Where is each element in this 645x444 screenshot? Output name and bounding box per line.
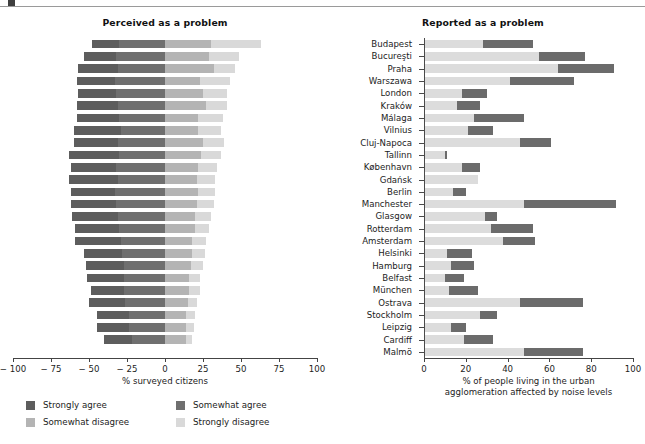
legend-swatch-icon bbox=[176, 401, 185, 410]
city-label: London bbox=[380, 88, 412, 98]
seg-somewhat-disagree bbox=[165, 151, 201, 160]
seg-strongly-agree bbox=[77, 77, 115, 86]
seg-somewhat-disagree bbox=[165, 126, 198, 135]
seg-55-65-db bbox=[424, 126, 468, 135]
right-bar-row bbox=[424, 311, 633, 320]
seg-strongly-agree bbox=[86, 261, 124, 270]
seg-somewhat-disagree bbox=[165, 274, 189, 283]
seg-somewhat-agree bbox=[129, 311, 165, 320]
seg-strongly-disagree bbox=[192, 249, 204, 258]
seg-55-65-db bbox=[424, 249, 447, 258]
seg-somewhat-disagree bbox=[165, 323, 186, 332]
right-axis-tick bbox=[549, 358, 550, 362]
seg-55-65-db bbox=[424, 224, 491, 233]
seg-strongly-agree bbox=[78, 64, 118, 73]
seg-somewhat-agree bbox=[121, 237, 165, 246]
city-label: Budapest bbox=[371, 39, 412, 49]
city-label: Málaga bbox=[381, 113, 412, 123]
city-label: Glasgow bbox=[375, 211, 412, 221]
seg-somewhat-disagree bbox=[165, 224, 195, 233]
seg-55-65-db bbox=[424, 274, 445, 283]
right-axis-tick-label: 0 bbox=[421, 364, 426, 374]
right-bar-row bbox=[424, 200, 633, 209]
seg-strongly-agree bbox=[77, 114, 120, 123]
seg-somewhat-disagree bbox=[165, 286, 189, 295]
seg-55-65-db bbox=[424, 200, 524, 209]
right-bar-row bbox=[424, 188, 633, 197]
legend-item-strongly-disagree[interactable]: Strongly disagree bbox=[176, 417, 269, 427]
seg-somewhat-agree bbox=[132, 335, 165, 344]
right-axis-tick bbox=[633, 358, 634, 362]
right-bar-row bbox=[424, 237, 633, 246]
legend-swatch-icon bbox=[176, 418, 185, 427]
seg-above-65-db bbox=[451, 323, 466, 332]
seg-strongly-disagree bbox=[186, 311, 195, 320]
left-bar-row bbox=[13, 175, 317, 184]
seg-somewhat-agree bbox=[116, 52, 165, 61]
left-bar-row bbox=[13, 335, 317, 344]
left-bar-row bbox=[13, 224, 317, 233]
right-bar-row bbox=[424, 175, 633, 184]
seg-strongly-agree bbox=[97, 311, 129, 320]
city-label: Praha bbox=[387, 64, 412, 74]
seg-somewhat-agree bbox=[119, 114, 165, 123]
seg-above-65-db bbox=[524, 200, 616, 209]
seg-strongly-disagree bbox=[211, 40, 261, 49]
left-axis-tick bbox=[51, 358, 52, 362]
seg-somewhat-disagree bbox=[165, 175, 197, 184]
legend-item-strongly-agree[interactable]: Strongly agree bbox=[26, 400, 107, 410]
seg-somewhat-agree bbox=[118, 101, 165, 110]
seg-somewhat-disagree bbox=[165, 89, 203, 98]
seg-55-65-db bbox=[424, 64, 558, 73]
seg-strongly-disagree bbox=[214, 64, 235, 73]
city-label: Hamburg bbox=[372, 261, 412, 271]
seg-55-65-db bbox=[424, 151, 445, 160]
seg-strongly-disagree bbox=[195, 212, 210, 221]
city-label: Belfast bbox=[382, 273, 412, 283]
left-bar-row bbox=[13, 126, 317, 135]
seg-55-65-db bbox=[424, 138, 520, 147]
seg-somewhat-disagree bbox=[165, 237, 192, 246]
left-bar-row bbox=[13, 138, 317, 147]
left-bar-row bbox=[13, 40, 317, 49]
left-bar-row bbox=[13, 249, 317, 258]
left-axis-tick bbox=[127, 358, 128, 362]
legend-item-somewhat-agree[interactable]: Somewhat agree bbox=[176, 400, 267, 410]
city-label: Warszawa bbox=[369, 76, 412, 86]
seg-55-65-db bbox=[424, 89, 462, 98]
left-bar-row bbox=[13, 89, 317, 98]
seg-strongly-agree bbox=[71, 188, 115, 197]
legend-label: Strongly agree bbox=[43, 400, 107, 410]
seg-somewhat-disagree bbox=[165, 200, 197, 209]
seg-55-65-db bbox=[424, 212, 485, 221]
seg-above-65-db bbox=[510, 77, 575, 86]
seg-strongly-disagree bbox=[191, 261, 203, 270]
seg-above-65-db bbox=[483, 40, 533, 49]
city-label: Tallinn bbox=[385, 150, 412, 160]
left-bar-row bbox=[13, 101, 317, 110]
seg-above-65-db bbox=[447, 249, 472, 258]
seg-55-65-db bbox=[424, 323, 451, 332]
seg-strongly-agree bbox=[84, 52, 116, 61]
right-axis-tick-label: 100 bbox=[625, 364, 641, 374]
left-axis-tick-label: 75 bbox=[274, 364, 285, 374]
city-label: Cardiff bbox=[384, 335, 412, 345]
seg-above-65-db bbox=[520, 138, 551, 147]
legend-item-somewhat-disagree[interactable]: Somewhat disagree bbox=[26, 417, 129, 427]
seg-strongly-agree bbox=[78, 89, 116, 98]
city-label: Cluj-Napoca bbox=[360, 138, 412, 148]
left-bar-row bbox=[13, 52, 317, 61]
right-axis-tick-label: 20 bbox=[460, 364, 471, 374]
seg-strongly-agree bbox=[71, 163, 117, 172]
seg-somewhat-disagree bbox=[165, 40, 211, 49]
right-bar-row bbox=[424, 274, 633, 283]
seg-strongly-agree bbox=[89, 298, 125, 307]
seg-strongly-agree bbox=[92, 40, 119, 49]
seg-somewhat-agree bbox=[115, 188, 165, 197]
seg-somewhat-agree bbox=[118, 64, 165, 73]
right-axis-tick bbox=[591, 358, 592, 362]
seg-above-65-db bbox=[445, 151, 447, 160]
seg-above-65-db bbox=[453, 188, 466, 197]
legend-swatch-icon bbox=[26, 418, 35, 427]
seg-above-65-db bbox=[539, 52, 585, 61]
